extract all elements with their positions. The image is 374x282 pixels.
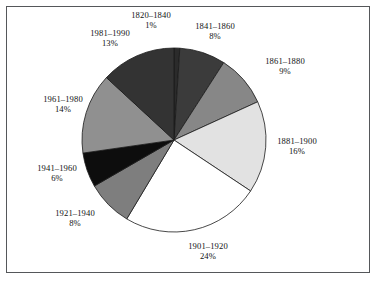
pie-slice-percent: 16%: [277, 146, 317, 156]
pie-slice-percent: 13%: [90, 38, 130, 48]
pie-svg: [0, 0, 374, 282]
pie-slice-category: 1941–1960: [37, 163, 77, 173]
pie-slice-percent: 8%: [55, 218, 95, 228]
pie-slice-percent: 6%: [37, 173, 77, 183]
pie-slice-percent: 9%: [265, 66, 305, 76]
pie-slice-percent: 8%: [195, 31, 235, 41]
pie-slice-label: 1820–18401%: [131, 10, 171, 31]
pie-slice-label: 1921–19408%: [55, 208, 95, 229]
pie-slice-percent: 24%: [188, 251, 228, 261]
pie-chart-figure: 1820–18401%1841–18608%1861–18809%1881–19…: [0, 0, 374, 282]
pie-slice-label: 1941–19606%: [37, 163, 77, 184]
pie-slice-label: 1841–18608%: [195, 21, 235, 42]
pie-slice-category: 1841–1860: [195, 21, 235, 31]
pie-slice-label: 1861–18809%: [265, 56, 305, 77]
pie-slice-category: 1820–1840: [131, 10, 171, 20]
pie-slice-percent: 1%: [131, 20, 171, 30]
chart-plot-area: 1820–18401%1841–18608%1861–18809%1881–19…: [0, 0, 374, 282]
pie-slice-category: 1881–1900: [277, 136, 317, 146]
pie-slice-category: 1981–1990: [90, 28, 130, 38]
pie-slice-label: 1881–190016%: [277, 136, 317, 157]
pie-slice-percent: 14%: [43, 104, 83, 114]
pie-slice-category: 1901–1920: [188, 241, 228, 251]
pie-slice-category: 1961–1980: [43, 94, 83, 104]
pie-slice-label: 1901–192024%: [188, 241, 228, 262]
pie-slice-label: 1961–198014%: [43, 94, 83, 115]
pie-slice-category: 1861–1880: [265, 56, 305, 66]
pie-slice-category: 1921–1940: [55, 208, 95, 218]
pie-slice-label: 1981–199013%: [90, 28, 130, 49]
